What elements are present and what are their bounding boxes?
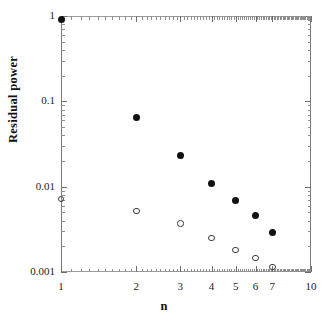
x-axis-minor-tick-top: [169, 16, 170, 20]
y-axis-minor-tick-right: [308, 127, 312, 128]
y-axis-minor-tick-right: [308, 110, 312, 111]
x-axis-minor-tick-top: [214, 16, 215, 20]
x-axis-major-tick: [212, 266, 213, 272]
x-axis-major-tick: [236, 266, 237, 272]
y-axis-minor-tick-right: [308, 120, 312, 121]
x-axis-minor-tick: [112, 269, 113, 273]
x-axis-minor-tick: [71, 269, 72, 273]
y-axis-tick-label: 0.01: [19, 181, 55, 192]
x-axis-major-tick-top: [311, 16, 312, 22]
x-axis-minor-tick: [242, 269, 243, 273]
y-axis-minor-tick: [61, 191, 65, 192]
data-point-filled: [208, 180, 215, 187]
x-axis-minor-tick-top: [203, 16, 204, 20]
data-point-open: [133, 208, 140, 215]
x-axis-minor-tick: [240, 269, 241, 273]
x-axis-minor-tick: [197, 269, 198, 273]
x-axis-minor-tick-top: [81, 16, 82, 20]
x-axis-minor-tick-top: [200, 16, 201, 20]
y-axis-minor-tick: [61, 42, 65, 43]
x-axis-minor-tick-top: [160, 16, 161, 20]
x-axis-minor-tick: [238, 269, 239, 273]
x-axis-minor-tick-top: [191, 16, 192, 20]
x-axis-minor-tick-top: [240, 16, 241, 20]
x-axis-minor-tick: [147, 269, 148, 273]
y-axis-minor-tick: [61, 135, 65, 136]
x-axis-tick-label: 7: [260, 281, 284, 292]
x-axis-minor-tick: [156, 269, 157, 273]
x-axis-minor-tick: [165, 269, 166, 273]
y-axis-minor-tick: [61, 24, 65, 25]
x-axis-minor-tick: [169, 269, 170, 273]
y-axis-minor-tick: [61, 110, 65, 111]
x-axis-minor-tick-top: [194, 16, 195, 20]
x-axis-minor-tick: [252, 269, 253, 273]
x-axis-title: n: [0, 299, 328, 314]
y-axis-minor-tick: [61, 120, 65, 121]
x-axis-minor-tick: [234, 269, 235, 273]
x-axis-major-tick-top: [180, 16, 181, 22]
x-axis-tick-label: 3: [168, 281, 192, 292]
y-axis-minor-tick-right: [308, 61, 312, 62]
y-axis-minor-tick: [61, 206, 65, 207]
y-axis-minor-tick: [61, 29, 65, 30]
x-axis-minor-tick-top: [177, 16, 178, 20]
x-axis-major-tick: [256, 266, 257, 272]
y-axis-minor-tick-right: [308, 105, 312, 106]
y-axis-minor-tick: [61, 50, 65, 51]
x-axis-minor-tick: [229, 269, 230, 273]
x-axis-tick-label: 10: [299, 281, 323, 292]
data-point-open: [208, 235, 215, 242]
x-axis-minor-tick: [131, 269, 132, 273]
y-axis-major-tick: [61, 272, 67, 273]
y-axis-minor-tick-right: [308, 200, 312, 201]
x-axis-minor-tick-top: [219, 16, 220, 20]
x-axis-minor-tick: [227, 269, 228, 273]
chart-figure: Residual power n 10.10.010.001123456710: [0, 0, 328, 321]
x-axis-minor-tick-top: [252, 16, 253, 20]
y-axis-minor-tick: [61, 35, 65, 36]
x-axis-minor-tick: [184, 269, 185, 273]
y-axis-minor-tick: [61, 115, 65, 116]
x-axis-minor-tick: [200, 269, 201, 273]
y-axis-minor-tick-right: [308, 191, 312, 192]
x-axis-minor-tick: [222, 269, 223, 273]
y-axis-major-tick: [61, 187, 67, 188]
x-axis-minor-tick-top: [227, 16, 228, 20]
x-axis-minor-tick-top: [105, 16, 106, 20]
y-axis-minor-tick-right: [308, 146, 312, 147]
y-axis-major-tick: [61, 101, 67, 102]
x-axis-minor-tick: [191, 269, 192, 273]
data-point-open: [269, 264, 276, 271]
x-axis-minor-tick-top: [125, 16, 126, 20]
x-axis-minor-tick-top: [147, 16, 148, 20]
data-point-filled: [252, 212, 259, 219]
x-axis-minor-tick: [206, 269, 207, 273]
x-axis-minor-tick: [89, 269, 90, 273]
y-axis-minor-tick-right: [308, 231, 312, 232]
x-axis-minor-tick: [151, 269, 152, 273]
x-axis-minor-tick: [224, 269, 225, 273]
x-axis-minor-tick: [105, 269, 106, 273]
y-axis-tick-label: 0.001: [19, 266, 55, 277]
x-axis-minor-tick: [203, 269, 204, 273]
data-point-filled: [133, 114, 140, 121]
x-axis-minor-tick-top: [248, 16, 249, 20]
x-axis-major-tick-top: [272, 16, 273, 22]
x-axis-major-tick: [136, 266, 137, 272]
x-axis-minor-tick: [246, 269, 247, 273]
x-axis-minor-tick-top: [151, 16, 152, 20]
x-axis-minor-tick: [98, 269, 99, 273]
x-axis-minor-tick: [209, 269, 210, 273]
y-axis-minor-tick: [61, 105, 65, 106]
x-axis-minor-tick-top: [156, 16, 157, 20]
y-axis-tick-label: 0.1: [19, 95, 55, 106]
x-axis-minor-tick-top: [98, 16, 99, 20]
x-axis-minor-tick-top: [187, 16, 188, 20]
x-axis-minor-tick-top: [238, 16, 239, 20]
data-point-open: [58, 196, 65, 203]
x-axis-minor-tick: [194, 269, 195, 273]
x-axis-major-tick-top: [236, 16, 237, 22]
x-axis-minor-tick-top: [222, 16, 223, 20]
x-axis-major-tick-top: [256, 16, 257, 22]
